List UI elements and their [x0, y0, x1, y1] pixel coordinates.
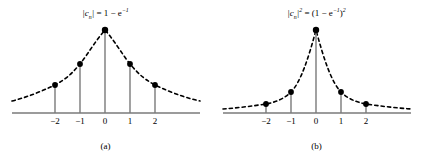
- tick-label-b-4: 2: [356, 116, 376, 126]
- stem-plot-b: [211, 0, 422, 154]
- data-point-b-neg2: [263, 101, 269, 107]
- data-point-b-neg1: [288, 89, 294, 95]
- data-point-a-zero: [102, 27, 108, 33]
- panel-caption-a: (a): [0, 141, 211, 152]
- data-point-a-pos1: [127, 61, 133, 67]
- panel-a: |cn| = 1 − e−1 −2 −1 0 1 2 (a): [0, 0, 211, 154]
- data-point-a-pos2: [152, 82, 158, 88]
- data-point-b-zero: [313, 27, 319, 33]
- tick-label-a-3: 1: [120, 116, 140, 126]
- tick-label-a-1: −1: [70, 116, 90, 126]
- panel-caption-b: (b): [211, 141, 422, 152]
- data-point-a-neg2: [52, 82, 58, 88]
- tick-label-b-0: −2: [256, 116, 276, 126]
- tick-label-b-2: 0: [306, 116, 326, 126]
- stem-plot-a: [0, 0, 211, 154]
- panel-b: |cn|2 = (1 − e−1)2 −2 −1 0 1 2 (b): [211, 0, 422, 154]
- tick-label-a-2: 0: [95, 116, 115, 126]
- envelope-curve-a: [12, 30, 200, 101]
- data-point-a-neg1: [77, 61, 83, 67]
- data-point-b-pos1: [338, 89, 344, 95]
- data-point-b-pos2: [363, 101, 369, 107]
- envelope-curve-b: [223, 30, 411, 109]
- tick-label-b-3: 1: [331, 116, 351, 126]
- tick-label-a-0: −2: [45, 116, 65, 126]
- tick-label-a-4: 2: [145, 116, 165, 126]
- tick-label-b-1: −1: [281, 116, 301, 126]
